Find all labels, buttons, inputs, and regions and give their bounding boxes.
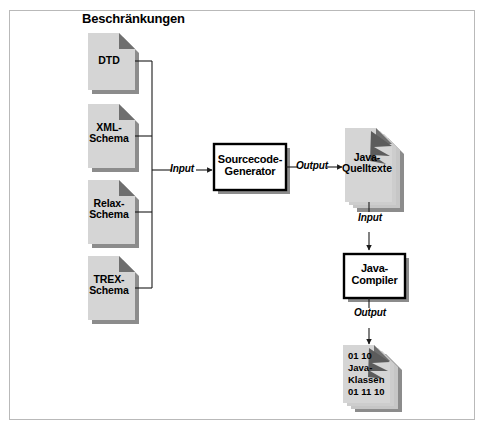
document-label-xml-schema: XML- Schema xyxy=(87,122,131,145)
process-label-sourcecode-generator: Sourcecode- Generator xyxy=(214,154,286,178)
process-label-java-compiler: Java- Compiler xyxy=(344,263,405,287)
document-label-java-klassen: 01 10 Java- Klassen 01 11 10 xyxy=(348,350,396,398)
document-label-java-quelltexte: Java- Quelltexte xyxy=(341,152,393,175)
document-label-dtd: DTD xyxy=(88,55,130,66)
edge-label-output-quelltexte: Output xyxy=(290,161,334,172)
edge-label-input-generator: Input xyxy=(160,164,204,175)
diagram-graphics xyxy=(0,0,492,430)
edge-label-input-compiler: Input xyxy=(348,213,392,224)
edge-label-output-klassen: Output xyxy=(348,308,392,319)
diagram-page: Beschränkungen DTD XML- Schema Relax- Sc… xyxy=(0,0,492,430)
section-heading-beschraenkungen: Beschränkungen xyxy=(82,12,282,26)
document-label-relax-schema: Relax- Schema xyxy=(87,198,131,221)
connector-constraints-bus xyxy=(135,61,152,288)
document-label-trex-schema: TREX- Schema xyxy=(87,274,131,297)
